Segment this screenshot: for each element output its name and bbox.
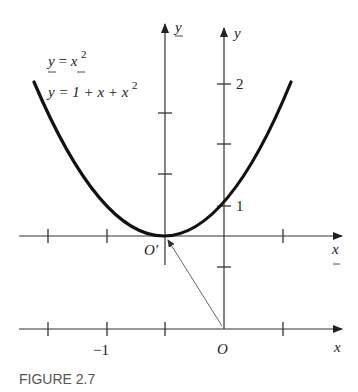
y-tick-label-two: 2 [236,76,244,92]
primed-y-axis-label: y [173,19,182,35]
primed-x-axis-label: x [331,241,339,257]
shifted-equation: y = x 2 [46,48,87,69]
y-tick-label-one: 1 [236,198,244,214]
original-axes: y x O −1 1 2 [19,25,342,358]
original-y-axis-label: y [232,25,241,41]
equation-labels: y = x 2 y = 1 + x + x 2 [46,48,138,100]
original-equation: y = 1 + x + x 2 [46,79,138,100]
original-origin-label: O [217,341,228,357]
figure-caption: FIGURE 2.7 [19,371,95,387]
original-x-axis-label: x [333,339,341,355]
parabola-curve [34,82,291,236]
primed-origin-label: O′ [144,242,159,258]
x-tick-label-minus-one: −1 [93,342,109,358]
origin-shift-arrow [168,240,222,326]
parabola-coordinate-shift-figure: y x O′ y x O −1 1 2 y = x 2 [0,0,358,392]
